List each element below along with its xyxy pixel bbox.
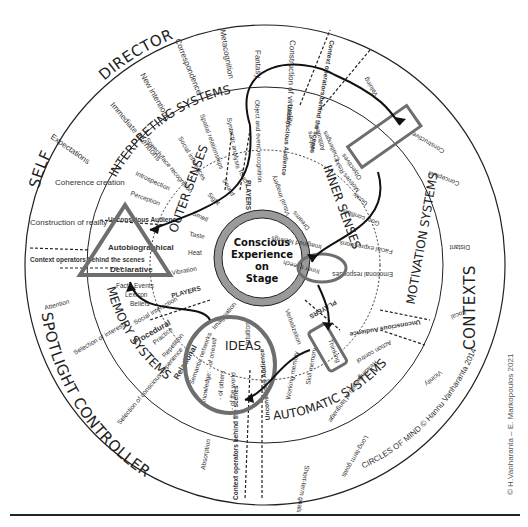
- center-line-2: Experience: [231, 249, 293, 260]
- outer-sense-item: Taste: [189, 230, 206, 240]
- memory-item-declarative: Declarative: [110, 265, 153, 274]
- memory-item: - of others: [216, 370, 226, 401]
- spotlight-item: Selection of interests: [72, 319, 128, 356]
- circles-of-mind-diagram: SELF DIRECTOR CONTEXTS SPOTLIGHT CONTROL…: [0, 0, 528, 527]
- interpreting-item: Perception: [129, 189, 161, 207]
- interpreting-item: Object and event recognition: [253, 100, 264, 183]
- unconscious-audience-top: Unconscious Audience: [281, 104, 294, 176]
- interpreting-item: Introspection: [134, 170, 171, 193]
- ideas-item: Intuition: [244, 322, 251, 345]
- interpreting-item: Syntactic analysis: [225, 117, 242, 170]
- label-self: SELF: [25, 148, 55, 190]
- spotlight-item: Absorption: [199, 438, 212, 470]
- motivation-item: Goals: [351, 191, 369, 208]
- players-label-top: PLAYERS: [245, 180, 252, 211]
- spotlight-item: Attention: [43, 297, 70, 311]
- context-item: Constructive: [410, 131, 445, 155]
- automatic-item: Working memory: [284, 350, 301, 400]
- unconscious-audience-bottom: Unconscious Audience: [258, 348, 271, 420]
- label-motivation-systems: MOTIVATION SYSTEMS: [404, 171, 441, 305]
- motivation-item: Facial expressions: [338, 239, 393, 256]
- context-item: Vicinity: [422, 368, 443, 388]
- constructive-box-highlight: [348, 106, 421, 168]
- memory-item: Events: [134, 282, 155, 289]
- inner-sense-item: Visual imagery: [270, 174, 292, 217]
- label-director: DIRECTOR: [95, 25, 175, 83]
- director-item: Metacognition: [218, 29, 236, 80]
- director-item: New intentions: [138, 72, 172, 122]
- self-item: Coherence creation: [55, 178, 125, 187]
- self-item: Construction of reality: [30, 218, 107, 227]
- context-item: Distant: [450, 244, 470, 251]
- center-line-3: on: [255, 261, 269, 272]
- unconscious-audience-right: Unconscious Audience: [349, 319, 421, 338]
- ideas-item: Verbalization: [284, 308, 303, 346]
- credit-text: © H.Vanharanta – E. Markopoulos 2021: [506, 354, 515, 495]
- players-label-left: PLAYERS: [170, 284, 202, 299]
- context-item: Long-term goals: [339, 434, 370, 479]
- bottom-rule: [10, 514, 520, 516]
- director-item: Correspondence: [173, 37, 204, 96]
- outer-sense-item: Vibration: [171, 265, 198, 276]
- players-label-right: PLAYERS: [308, 299, 338, 320]
- memory-item-autobiographical: Autobiographical: [108, 243, 174, 252]
- context-item: Short-term goals: [295, 465, 311, 514]
- label-contexts: CONTEXTS: [461, 265, 479, 350]
- center-line-4: Stage: [246, 273, 279, 284]
- outer-sense-item: Heat: [188, 249, 202, 256]
- memory-item: - of the world: [228, 372, 236, 410]
